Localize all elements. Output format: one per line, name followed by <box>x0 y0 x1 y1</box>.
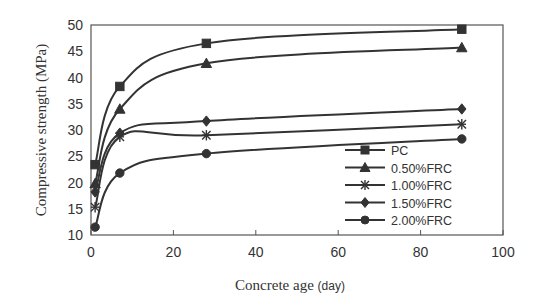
circle-marker-icon <box>116 169 124 177</box>
legend-item: 1.00%FRC <box>345 179 452 193</box>
asterisk-marker-icon <box>361 180 369 190</box>
x-tick-label: 20 <box>166 244 182 260</box>
y-tick-label: 25 <box>67 148 83 164</box>
y-tick-label: 50 <box>67 17 83 33</box>
y-tick-label: 45 <box>67 43 83 59</box>
circle-marker-icon <box>458 135 466 143</box>
y-tick-label: 15 <box>67 201 83 217</box>
square-marker-icon <box>116 82 124 90</box>
x-tick-label: 0 <box>87 244 95 260</box>
diamond-marker-icon <box>458 104 466 114</box>
y-tick-label: 20 <box>67 175 83 191</box>
y-tick-label: 10 <box>67 227 83 243</box>
legend-item: PC <box>345 144 408 158</box>
asterisk-marker-icon <box>202 130 210 140</box>
x-tick-label: 40 <box>248 244 264 260</box>
x-tick-label: 60 <box>330 244 346 260</box>
legend-item: 2.00%FRC <box>345 214 452 228</box>
legend-item: 0.50%FRC <box>345 162 452 176</box>
x-axis-title-unit: (day) <box>318 279 345 293</box>
diamond-marker-icon <box>202 116 210 126</box>
square-marker-icon <box>91 160 99 168</box>
x-tick-label: 100 <box>491 244 515 260</box>
circle-marker-icon <box>361 216 369 224</box>
x-axis-title-main: Concrete age <box>235 277 317 293</box>
diamond-marker-icon <box>361 198 369 208</box>
legend: PC0.50%FRC1.00%FRC1.50%FRC2.00%FRC <box>345 144 452 228</box>
y-tick-label: 35 <box>67 96 83 112</box>
chart-canvas: 101520253035404550 020406080100 Compress… <box>0 0 536 307</box>
y-axis-title: Compressive strength (MPa) <box>33 44 50 216</box>
square-marker-icon <box>202 39 210 47</box>
asterisk-marker-icon <box>458 119 466 129</box>
x-tick-label: 80 <box>413 244 429 260</box>
circle-marker-icon <box>91 223 99 231</box>
y-tick-label: 30 <box>67 122 83 138</box>
y-tick-label: 40 <box>67 70 83 86</box>
legend-label: 1.00%FRC <box>391 179 452 193</box>
y-axis: 101520253035404550 <box>67 17 83 243</box>
x-axis-title: Concrete age (day) <box>235 277 345 293</box>
asterisk-marker-icon <box>91 202 99 212</box>
legend-item: 1.50%FRC <box>345 197 452 211</box>
series-markers-0 <box>91 25 466 169</box>
legend-label: PC <box>391 144 408 158</box>
legend-label: 2.00%FRC <box>391 214 452 228</box>
square-marker-icon <box>458 25 466 33</box>
legend-label: 1.50%FRC <box>391 197 452 211</box>
legend-label: 0.50%FRC <box>391 162 452 176</box>
square-marker-icon <box>361 146 369 154</box>
circle-marker-icon <box>202 149 210 157</box>
